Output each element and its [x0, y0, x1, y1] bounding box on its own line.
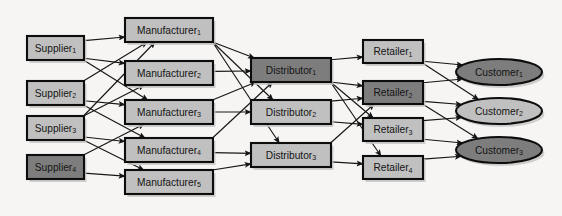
node-shape-rect	[363, 118, 423, 141]
edge-r2-to-c1	[423, 79, 463, 83]
edge-m5-to-d3	[213, 164, 252, 170]
node-shape-rect	[251, 58, 331, 82]
supply-chain-diagram: Supplier1Supplier2Supplier3Supplier4Manu…	[0, 0, 562, 216]
node-distributor-3[interactable]: Distributor3	[251, 143, 334, 170]
node-manufacturer-2[interactable]: Manufacturer2	[125, 61, 216, 88]
edge-r3-to-c3	[423, 139, 463, 143]
node-shape-ellipse	[456, 98, 542, 124]
node-supplier-3[interactable]: Supplier3	[27, 116, 87, 143]
edge-r1-to-c1	[423, 61, 463, 65]
node-shape-rect	[27, 81, 84, 105]
node-shape-rect	[125, 18, 213, 42]
edge-s1-to-m1	[84, 37, 125, 41]
node-distributor-2[interactable]: Distributor2	[251, 100, 334, 127]
node-shape-rect	[27, 36, 84, 60]
node-shape-rect	[125, 100, 213, 124]
node-manufacturer-1[interactable]: Manufacturer1	[125, 18, 216, 45]
edge-d1-to-r1	[331, 57, 363, 60]
node-shape-rect	[125, 170, 213, 194]
node-shape-rect	[125, 138, 213, 162]
node-customer-1[interactable]: Customer1	[456, 59, 545, 88]
node-manufacturer-3[interactable]: Manufacturer3	[125, 100, 216, 127]
node-shape-rect	[363, 81, 423, 104]
node-supplier-4[interactable]: Supplier4	[27, 155, 87, 182]
node-retailer-2[interactable]: Retailer2	[363, 81, 426, 107]
node-customer-2[interactable]: Customer2	[456, 98, 545, 127]
node-retailer-4[interactable]: Retailer4	[363, 156, 426, 182]
node-manufacturer-5[interactable]: Manufacturer5	[125, 170, 216, 197]
node-layer: Supplier1Supplier2Supplier3Supplier4Manu…	[27, 18, 545, 197]
node-retailer-3[interactable]: Retailer3	[363, 118, 426, 144]
node-shape-rect	[27, 155, 84, 179]
edge-s4-to-m5	[84, 173, 125, 176]
node-shape-rect	[251, 100, 331, 124]
edge-d1-to-r2	[331, 82, 364, 86]
node-supplier-1[interactable]: Supplier1	[27, 36, 87, 63]
node-shape-rect	[27, 116, 84, 140]
edge-d2-to-r2	[331, 98, 363, 101]
node-distributor-1[interactable]: Distributor1	[251, 58, 334, 85]
node-shape-rect	[251, 143, 331, 167]
edge-r3-to-c2	[423, 118, 462, 121]
edge-m4-to-d3	[213, 153, 251, 154]
node-shape-rect	[125, 61, 213, 85]
node-customer-3[interactable]: Customer3	[456, 137, 545, 166]
node-supplier-2[interactable]: Supplier2	[27, 81, 87, 108]
edge-r4-to-c3	[423, 156, 461, 159]
edge-r2-to-c2	[423, 101, 462, 104]
node-shape-ellipse	[456, 137, 542, 163]
node-retailer-1[interactable]: Retailer1	[363, 40, 426, 66]
node-shape-rect	[363, 40, 423, 63]
edge-s2-to-m3	[84, 101, 125, 105]
edge-d3-to-r4	[331, 162, 363, 164]
network-canvas: Supplier1Supplier2Supplier3Supplier4Manu…	[0, 0, 562, 216]
edge-s3-to-m4	[84, 137, 125, 141]
edge-m1-to-d1	[213, 42, 255, 58]
node-manufacturer-4[interactable]: Manufacturer4	[125, 138, 216, 165]
node-shape-ellipse	[456, 59, 542, 85]
node-shape-rect	[363, 156, 423, 179]
